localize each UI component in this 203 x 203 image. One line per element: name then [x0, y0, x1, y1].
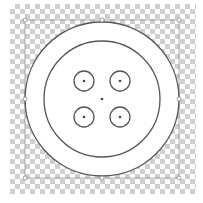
handle-top-right [177, 18, 181, 22]
handle-bottom [100, 176, 104, 180]
handle-bottom-right [177, 176, 181, 180]
handle-bottom-left [23, 176, 27, 180]
handle-top [100, 18, 104, 22]
center-point [101, 98, 104, 101]
button-drawing[interactable] [0, 0, 203, 203]
handle-left [23, 97, 27, 101]
handle-top-left [23, 18, 27, 22]
handle-right [177, 97, 181, 101]
